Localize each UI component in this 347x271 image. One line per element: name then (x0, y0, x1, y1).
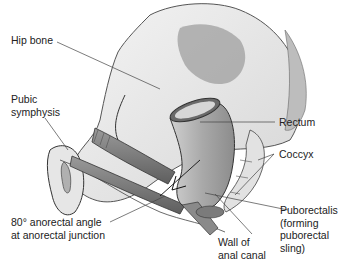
label-anorectal-angle: 80° anorectal angle at anorectal junctio… (11, 216, 105, 241)
label-rectum: Rectum (279, 116, 315, 129)
anatomy-diagram: Hip bone Pubic symphysis Rectum Coccyx 8… (0, 0, 347, 271)
label-wall-of-anal-canal: Wall of anal canal (218, 236, 266, 261)
label-puborectalis: Puborectalis (forming puborectal sling) (280, 204, 338, 254)
label-hip-bone: Hip bone (11, 34, 53, 47)
label-coccyx: Coccyx (279, 148, 313, 161)
label-pubic-symphysis: Pubic symphysis (11, 93, 60, 118)
